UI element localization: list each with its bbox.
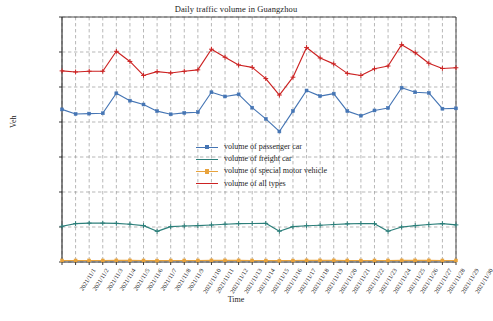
data-point-marker (128, 99, 131, 102)
data-point-marker (427, 91, 430, 94)
legend-swatch-icon (196, 179, 218, 188)
legend-item[interactable]: volume of freight car (196, 153, 327, 165)
data-point-marker (346, 110, 349, 113)
data-point-marker (359, 259, 362, 262)
series-line (62, 88, 456, 132)
series-line (62, 45, 456, 95)
data-point-marker (291, 259, 294, 262)
legend-item[interactable]: volume of passenger car (196, 141, 327, 153)
data-point-marker (400, 259, 403, 262)
series-line (62, 223, 456, 231)
data-point-marker (305, 259, 308, 262)
data-point-marker (88, 112, 91, 115)
legend-label: volume of freight car (224, 153, 292, 165)
data-point-marker (88, 259, 91, 262)
data-point-marker (291, 110, 294, 113)
data-point-marker (251, 106, 254, 109)
data-point-marker (156, 259, 159, 262)
data-point-marker (427, 259, 430, 262)
data-point-marker (441, 259, 444, 262)
data-point-marker (251, 259, 254, 262)
chart-legend: volume of passenger carvolume of freight… (196, 141, 327, 190)
legend-item[interactable]: volume of special motor vehicle (196, 165, 327, 177)
data-point-marker (332, 259, 335, 262)
data-point-marker (183, 111, 186, 114)
data-point-marker (128, 259, 131, 262)
data-point-marker (455, 259, 458, 262)
series-0 (61, 86, 458, 133)
data-point-marker (169, 113, 172, 116)
data-point-marker (101, 259, 104, 262)
data-point-marker (237, 93, 240, 96)
data-point-marker (156, 110, 159, 113)
legend-swatch-icon (196, 143, 218, 152)
data-point-marker (224, 95, 227, 98)
data-point-marker (319, 95, 322, 98)
legend-label: volume of all types (224, 178, 286, 190)
data-point-marker (414, 91, 417, 94)
data-point-marker (74, 112, 77, 115)
data-point-marker (142, 259, 145, 262)
data-point-marker (414, 259, 417, 262)
legend-swatch-icon (196, 167, 218, 176)
data-point-marker (224, 259, 227, 262)
data-point-marker (237, 259, 240, 262)
data-point-marker (61, 108, 64, 111)
data-point-marker (319, 259, 322, 262)
data-point-marker (278, 130, 281, 133)
legend-swatch-icon (196, 155, 218, 164)
data-point-marker (359, 114, 362, 117)
data-point-marker (101, 112, 104, 115)
legend-label: volume of passenger car (224, 141, 302, 153)
data-point-marker (183, 259, 186, 262)
data-point-marker (455, 107, 458, 110)
data-point-marker (142, 103, 145, 106)
data-point-marker (332, 92, 335, 95)
data-point-marker (210, 91, 213, 94)
data-point-marker (74, 259, 77, 262)
data-point-marker (196, 111, 199, 114)
legend-item[interactable]: volume of all types (196, 178, 327, 190)
legend-label: volume of special motor vehicle (224, 165, 327, 177)
data-point-marker (115, 92, 118, 95)
data-point-marker (387, 259, 390, 262)
data-point-marker (373, 259, 376, 262)
series-3 (60, 42, 459, 97)
data-point-marker (61, 259, 64, 262)
data-point-marker (278, 259, 281, 262)
data-point-marker (400, 86, 403, 89)
data-point-marker (196, 259, 199, 262)
data-point-marker (441, 107, 444, 110)
data-point-marker (346, 259, 349, 262)
data-point-marker (373, 109, 376, 112)
data-point-marker (264, 117, 267, 120)
data-point-marker (305, 89, 308, 92)
data-point-marker (387, 107, 390, 110)
data-point-marker (264, 259, 267, 262)
data-point-marker (210, 259, 213, 262)
data-point-marker (115, 259, 118, 262)
data-point-marker (169, 259, 172, 262)
